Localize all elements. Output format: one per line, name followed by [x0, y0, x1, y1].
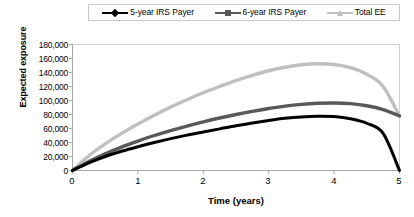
data-series-layer	[73, 64, 400, 171]
series-5-year-irs-payer	[73, 116, 400, 170]
y-axis-ticks	[69, 45, 72, 171]
series-6-year-irs-payer	[73, 103, 400, 171]
expected-exposure-chart: 5-year IRS Payer 6-year IRS Payer Total …	[0, 0, 414, 217]
series-total-ee	[73, 64, 400, 171]
plot-area	[0, 0, 414, 217]
